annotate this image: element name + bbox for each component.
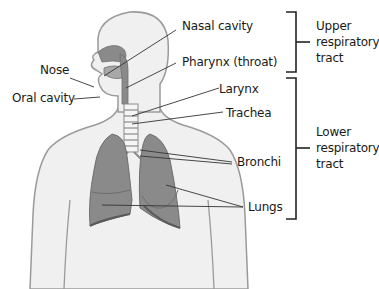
label-pharynx: Pharynx (throat) bbox=[182, 55, 277, 69]
torso-outline bbox=[30, 108, 248, 289]
label-larynx: Larynx bbox=[219, 82, 259, 96]
group-brackets bbox=[286, 12, 310, 219]
label-nasal-cavity: Nasal cavity bbox=[182, 19, 253, 33]
label-nose: Nose bbox=[40, 63, 69, 77]
group-lower-respiratory: Lower respiratory tract bbox=[316, 124, 379, 172]
label-trachea: Trachea bbox=[226, 106, 271, 120]
label-lungs: Lungs bbox=[248, 200, 283, 214]
label-oral-cavity: Oral cavity bbox=[12, 91, 75, 105]
label-bronchi: Bronchi bbox=[237, 155, 281, 169]
group-upper-respiratory: Upper respiratory tract bbox=[316, 18, 379, 66]
